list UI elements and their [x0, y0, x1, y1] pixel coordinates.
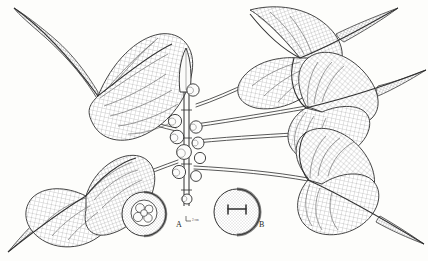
illustration-canvas: [0, 0, 428, 261]
detail-circle-a: [122, 192, 166, 236]
scale-annotation: 2 cm: [192, 218, 199, 222]
illustration-plate: A B 2 cm: [0, 0, 428, 261]
terminal-fig-pair: [187, 84, 200, 96]
detail-label-a: A: [176, 220, 182, 229]
detail-label-b: B: [259, 220, 265, 229]
basal-fig: [181, 194, 192, 204]
detail-circle-b: [214, 189, 260, 235]
